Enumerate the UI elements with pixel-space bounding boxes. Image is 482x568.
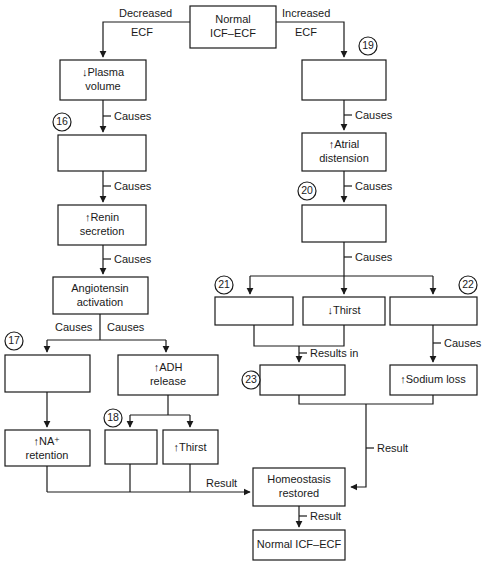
node-label-sodium-loss: ↑Sodium loss [400, 373, 466, 385]
marker-17-label: 17 [8, 334, 20, 346]
node-label-plasma-volume-line2: volume [85, 80, 120, 92]
marker-23-label: 23 [245, 373, 257, 385]
node-label-normal-icf-ecf-bottom: Normal ICF–ECF [257, 538, 342, 550]
marker-17: 17 [5, 332, 23, 350]
node-label-adh-line2: release [150, 375, 186, 387]
marker-16: 16 [53, 113, 71, 131]
node-homeostasis-restored: Homeostasis restored [253, 468, 345, 506]
node-normal-icf-ecf-top: Normal ICF–ECF [190, 6, 276, 48]
edge-label-causes-plasma: Causes [114, 110, 152, 122]
edge-label-causes-22: Causes [444, 337, 482, 349]
edge-merge-23-sodium [299, 395, 433, 404]
node-box23 [260, 365, 345, 395]
edge-label-increased-ecf: ECF [295, 26, 317, 38]
marker-23: 23 [242, 371, 260, 389]
node-box19 [302, 60, 386, 100]
node-box20 [302, 205, 386, 242]
marker-21: 21 [215, 276, 233, 294]
edge-label-causes-20: Causes [355, 251, 393, 263]
node-label-homeostasis-line2: restored [279, 487, 319, 499]
edge-label-causes-16: Causes [114, 180, 152, 192]
node-label-normal-icf-ecf-top-line2: ICF–ECF [210, 27, 256, 39]
node-label-renin-line2: secretion [80, 225, 125, 237]
node-label-atrial-line2: distension [319, 152, 369, 164]
marker-20: 20 [298, 182, 316, 200]
edge-result-right-to-homeostasis [351, 404, 366, 487]
node-renin-secretion: ↑Renin secretion [58, 205, 146, 245]
node-box17 [5, 355, 90, 392]
marker-20-label: 20 [301, 184, 313, 196]
edge-merge-21-thirst [254, 325, 344, 346]
node-normal-icf-ecf-bottom: Normal ICF–ECF [253, 530, 345, 560]
node-box18 [105, 430, 157, 464]
edge-label-result-bottom: Result [310, 510, 341, 522]
node-label-thirst-left: ↑Thirst [174, 441, 207, 453]
node-label-homeostasis-line1: Homeostasis [267, 473, 331, 485]
node-label-normal-icf-ecf-top-line1: Normal [215, 13, 250, 25]
node-sodium-loss: ↑Sodium loss [390, 365, 477, 395]
marker-22-label: 22 [462, 278, 474, 290]
edge-label-increased: Increased [282, 7, 330, 19]
edge-label-causes-left-a: Causes [55, 321, 93, 333]
node-thirst-right: ↓Thirst [303, 297, 385, 325]
node-atrial-distension: ↑Atrial distension [302, 133, 386, 171]
edge-label-result-right: Result [377, 442, 408, 454]
node-adh-release: ↑ADH release [118, 355, 218, 395]
edge-label-causes-19: Causes [355, 109, 393, 121]
node-label-adh-line1: ↑ADH [154, 361, 183, 373]
marker-19-label: 19 [362, 39, 374, 51]
node-label-plasma-volume-line1: ↓Plasma [82, 66, 125, 78]
marker-21-label: 21 [218, 278, 230, 290]
edge-label-decreased-ecf: ECF [131, 26, 153, 38]
node-label-na-line2: retention [26, 449, 69, 461]
edge-label-decreased: Decreased [119, 7, 172, 19]
node-label-renin-line1: ↑Renin [85, 211, 119, 223]
node-label-thirst-right: ↓Thirst [328, 304, 361, 316]
marker-18: 18 [104, 409, 122, 427]
node-box21 [215, 297, 293, 325]
node-label-angiotensin-line2: activation [77, 296, 123, 308]
edge-label-causes-renin: Causes [114, 253, 152, 265]
edge-label-results-in-23: Results in [310, 347, 358, 359]
node-label-atrial-line1: ↑Atrial [329, 138, 360, 150]
edge-label-causes-left-b: Causes [107, 321, 145, 333]
edge-label-causes-atrial: Causes [355, 180, 393, 192]
marker-19: 19 [359, 37, 377, 55]
flowchart-canvas: Normal ICF–ECF Decreased ECF Increased E… [0, 0, 482, 568]
marker-16-label: 16 [56, 115, 68, 127]
node-box22 [390, 297, 477, 325]
node-na-retention: ↑NA⁺ retention [5, 430, 90, 466]
marker-18-label: 18 [107, 411, 119, 423]
node-thirst-left: ↑Thirst [163, 430, 218, 464]
node-plasma-volume: ↓Plasma volume [60, 60, 146, 100]
node-box16 [58, 135, 146, 171]
node-angiotensin-activation: Angiotensin activation [53, 277, 148, 314]
node-label-angiotensin-line1: Angiotensin [71, 282, 129, 294]
edge-label-result-left: Result [206, 477, 237, 489]
node-label-na-line1: ↑NA⁺ [34, 435, 61, 447]
marker-22: 22 [459, 276, 477, 294]
